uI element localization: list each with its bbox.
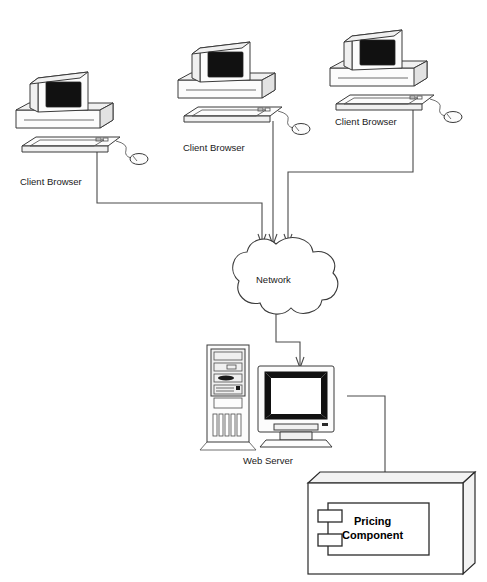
desktop-computer-icon <box>330 30 462 123</box>
network-cloud[interactable]: Network <box>233 238 338 314</box>
client-browser-2-label: Client Browser <box>183 142 245 153</box>
client-browser-3-label: Client Browser <box>335 116 397 127</box>
connector-client1-to-network <box>97 152 262 243</box>
client-browser-2[interactable]: Client Browser <box>178 42 310 153</box>
desktop-computer-icon <box>178 42 310 135</box>
client-browser-1-label: Client Browser <box>20 176 82 187</box>
web-server[interactable]: Web Server <box>200 345 334 466</box>
network-label: Network <box>256 274 291 285</box>
box-3d-top-face <box>308 472 475 483</box>
tower-server-icon <box>200 345 334 450</box>
web-server-label: Web Server <box>243 455 293 466</box>
client-browser-1[interactable]: Client Browser <box>16 72 148 187</box>
box-3d-right-face <box>463 472 475 574</box>
pricing-component-box[interactable]: Pricing Component <box>308 472 475 574</box>
diagram-canvas: Client Browser Clien <box>0 0 487 582</box>
desktop-computer-icon <box>16 72 148 165</box>
pricing-component-label-line1: Pricing <box>354 515 391 527</box>
connector-group <box>97 110 413 500</box>
pricing-component-label-line2: Component <box>342 529 403 541</box>
client-browser-3[interactable]: Client Browser <box>330 30 462 127</box>
network-deployment-diagram: Client Browser Clien <box>0 0 487 582</box>
